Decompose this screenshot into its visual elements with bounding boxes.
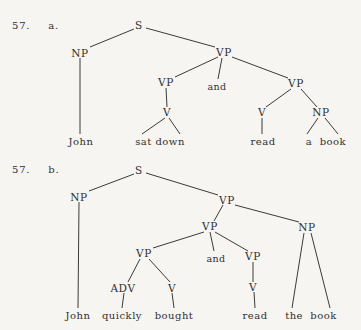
tree-a-node-conj-and: and — [208, 81, 227, 92]
tree-a-node-np-subject: NP — [71, 48, 88, 59]
tree-a-node-s: S — [135, 20, 143, 31]
tree-a-item-label: 57. a. — [12, 20, 59, 31]
branch-vpmid-to-vpleft — [153, 232, 204, 248]
branch-vpleft-to-adv — [128, 259, 140, 282]
tree-b-node-v-bought: V — [168, 283, 176, 294]
branch-np-to-a — [307, 118, 318, 134]
tree-a-leaf-a-book: a book — [306, 136, 346, 147]
tree-b-item-number: 57. — [12, 164, 30, 175]
branch-vpleft-to-v — [166, 88, 167, 107]
tree-b-leaf-read: read — [242, 310, 267, 321]
branch-vpright-to-np — [301, 89, 317, 107]
branch-v-to-sat — [142, 118, 165, 134]
branch-s-to-vp — [146, 28, 215, 47]
branch-vpmid-to-and — [210, 232, 214, 251]
tree-a-leaf-read: read — [250, 136, 275, 147]
tree-a-leaf-sat-down: sat down — [135, 136, 185, 147]
branch-s-to-np — [90, 29, 134, 47]
branch-np-to-john — [78, 202, 79, 308]
tree-a-node-vp-top: VP — [216, 47, 232, 58]
tree-a-node-np-object: NP — [312, 107, 329, 118]
branch-vpright-to-v — [266, 89, 291, 107]
tree-a-item-number: 57. — [12, 20, 30, 31]
branch-vp-to-vpmid — [214, 205, 223, 221]
branch-v-to-bought — [172, 293, 174, 308]
branch-vp-to-vpright — [232, 57, 288, 78]
tree-b-node-vp-mid: VP — [202, 221, 218, 232]
branch-s-to-vp — [146, 173, 218, 195]
branch-np-to-book — [311, 233, 330, 308]
tree-b-node-np-object: NP — [298, 222, 315, 233]
branch-v-to-read — [254, 292, 255, 308]
tree-b-node-v-read: V — [249, 282, 257, 293]
tree-b-leaf-quickly: quickly — [102, 310, 142, 321]
branch-vp-to-and — [218, 58, 222, 79]
tree-a-node-v-left: V — [163, 107, 171, 118]
tree-a-node-vp-left: VP — [158, 77, 174, 88]
branch-np-to-book — [325, 118, 338, 134]
tree-b-node-vp-top: VP — [219, 195, 235, 206]
tree-b-node-adv: ADV — [110, 283, 135, 294]
tree-b-node-vp-right: VP — [245, 251, 261, 262]
tree-b-node-vp-left: VP — [136, 248, 152, 259]
worksheet-page: 57. a. S NP VP VP and VP V V NP John sat… — [0, 0, 361, 330]
tree-b-node-s: S — [135, 165, 143, 176]
branch-vp-to-vpleft — [175, 57, 218, 77]
tree-b-leaf-bought: bought — [155, 310, 194, 321]
branch-adv-to-quickly — [122, 293, 124, 308]
tree-b-item-letter: b. — [48, 164, 59, 175]
tree-b-leaf-the-book: the book — [285, 310, 337, 321]
tree-a-node-vp-right: VP — [288, 78, 304, 89]
tree-b-node-conj-and: and — [207, 253, 226, 264]
tree-b-node-np-subject: NP — [70, 192, 87, 203]
branch-np-to-the — [292, 233, 304, 308]
branch-s-to-np — [89, 174, 134, 191]
tree-a-node-v-right: V — [258, 107, 266, 118]
tree-a-leaf-john: John — [69, 136, 94, 147]
branch-v-to-down — [169, 118, 180, 134]
branch-vp-to-npobj — [235, 205, 299, 222]
tree-b-item-label: 57. b. — [12, 164, 59, 175]
branch-vpleft-to-v — [149, 259, 170, 282]
tree-b-leaf-john: John — [66, 310, 91, 321]
tree-a-item-letter: a. — [48, 20, 59, 31]
branch-vpmid-to-vpright — [215, 232, 248, 251]
